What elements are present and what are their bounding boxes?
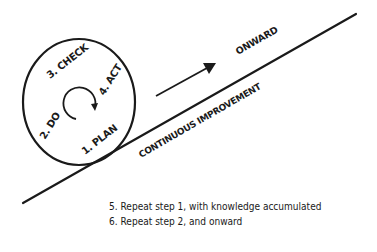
pdca-diagram: 3. CHECK 4. ACT 2. DO 1. PLAN ONWARD CON… [0, 0, 377, 252]
step-do-label: 2. DO [37, 110, 62, 141]
improvement-slope-line [23, 14, 356, 203]
onward-arrow-icon [156, 63, 216, 96]
step-act-label: 4. ACT [96, 62, 124, 97]
note-step-5: 5. Repeat step 1, with knowledge accumul… [109, 199, 321, 214]
follow-up-notes: 5. Repeat step 1, with knowledge accumul… [109, 199, 321, 229]
continuous-improvement-label: CONTINUOUS IMPROVEMENT [137, 81, 264, 160]
onward-label: ONWARD [234, 24, 280, 57]
rotation-arrow-icon [63, 87, 98, 119]
note-step-6: 6. Repeat step 2, and onward [109, 214, 321, 229]
